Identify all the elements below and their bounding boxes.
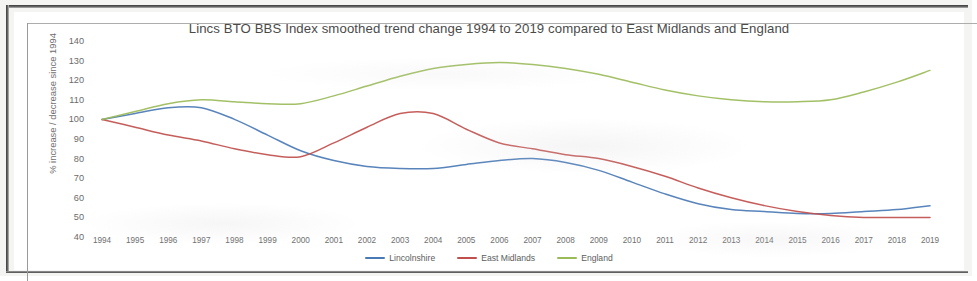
- plot-area: [14, 12, 964, 270]
- page-frame-left-edge: [6, 5, 9, 273]
- series-line-lincolnshire: [102, 107, 930, 214]
- legend-item-england[interactable]: England: [557, 253, 613, 263]
- legend-label: East Midlands: [481, 253, 535, 263]
- legend-label: Lincolnshire: [389, 253, 435, 263]
- series-line-east-midlands: [102, 112, 930, 218]
- page-frame-bottom-edge: [6, 271, 968, 273]
- legend-swatch-icon: [457, 257, 477, 259]
- legend-swatch-icon: [557, 257, 577, 259]
- series-line-england: [102, 63, 930, 120]
- chart-legend: LincolnshireEast MidlandsEngland: [14, 253, 964, 263]
- page-frame-top-edge: [6, 5, 968, 8]
- chart-plate: Lincs BTO BBS Index smoothed trend chang…: [14, 12, 964, 270]
- legend-item-lincolnshire[interactable]: Lincolnshire: [365, 253, 435, 263]
- legend-label: England: [581, 253, 613, 263]
- legend-item-east-midlands[interactable]: East Midlands: [457, 253, 535, 263]
- legend-swatch-icon: [365, 257, 385, 259]
